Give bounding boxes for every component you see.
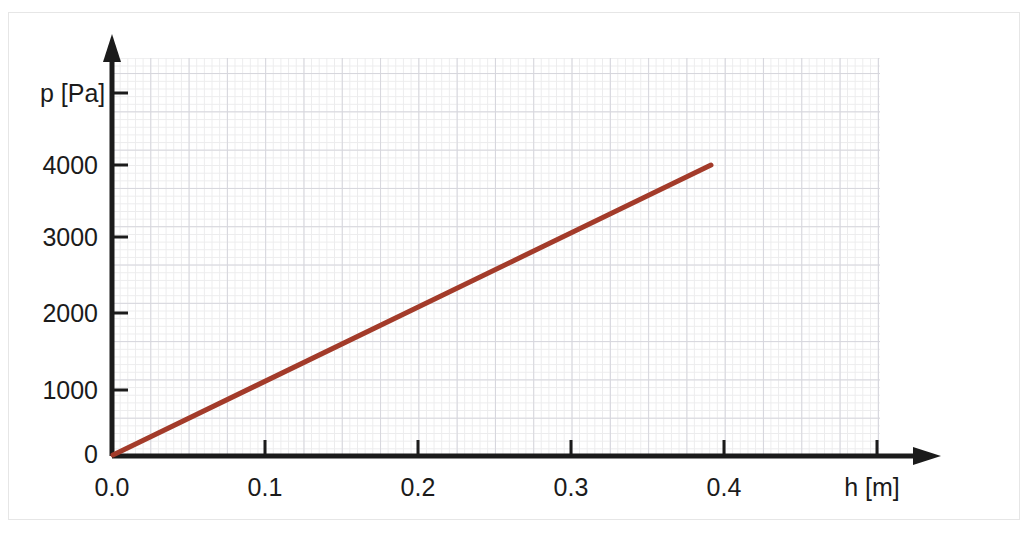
y-tick-label-1000: 1000 [22,376,98,405]
y-axis-arrowhead [103,34,121,62]
x-axis-arrowhead [913,447,941,465]
x-axis-label: h [m] [844,473,900,502]
y-tick-label-2000: 2000 [22,299,98,328]
y-tick-label-0: 0 [22,440,98,469]
x-tick-label-0-1: 0.1 [248,473,283,502]
y-axis-label: p [Pa] [40,79,105,108]
y-tick-label-3000: 3000 [22,223,98,252]
x-tick-label-0-2: 0.2 [401,473,436,502]
y-tick-label-4000: 4000 [22,151,98,180]
plot-canvas [0,0,1031,540]
data-series-line [113,165,711,455]
x-tick-label-0-3: 0.3 [554,473,589,502]
figure-root: p [Pa] 4000 3000 2000 1000 0 0.0 0.1 0.2… [0,0,1031,540]
x-tick-label-0-0: 0.0 [95,473,130,502]
x-tick-label-0-4: 0.4 [707,473,742,502]
